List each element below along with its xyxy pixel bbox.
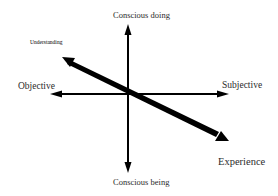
arrow-down-icon — [125, 162, 132, 173]
label-understanding: Understanding — [30, 40, 62, 46]
arrow-right-icon — [217, 91, 229, 98]
label-objective: Objective — [18, 82, 55, 92]
vertical-axis — [125, 24, 132, 173]
diagonal-axis — [62, 57, 229, 141]
label-conscious-doing: Conscious doing — [113, 11, 170, 20]
label-conscious-being: Conscious being — [113, 178, 169, 187]
label-subjective: Subjective — [222, 81, 262, 91]
arrow-up-icon — [125, 24, 132, 35]
label-experience: Experience — [218, 157, 265, 168]
arrow-left-icon — [50, 91, 62, 98]
